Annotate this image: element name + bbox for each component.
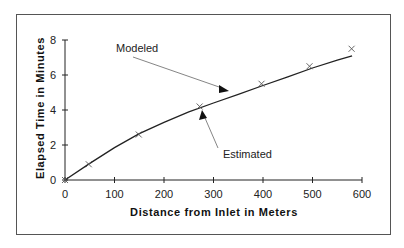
- x-tick-label: 0: [62, 188, 68, 200]
- y-tick-label: 8: [50, 34, 56, 46]
- x-tick-label: 200: [155, 188, 173, 200]
- x-tick-label: 500: [303, 188, 321, 200]
- estimated-annotation: Estimated: [223, 148, 272, 160]
- modeled-annotation: Modeled: [116, 42, 158, 54]
- x-tick-label: 600: [353, 188, 371, 200]
- chart: 010020030040050060002468 Distance from I…: [0, 0, 404, 248]
- y-tick-label: 6: [50, 69, 56, 81]
- y-tick-label: 2: [50, 139, 56, 151]
- x-tick-label: 100: [105, 188, 123, 200]
- x-tick-label: 300: [204, 188, 222, 200]
- x-tick-label: 400: [254, 188, 272, 200]
- y-tick-label: 0: [50, 174, 56, 186]
- y-tick-label: 4: [50, 104, 56, 116]
- chart-frame: [17, 15, 391, 235]
- x-axis-title: Distance from Inlet in Meters: [130, 206, 298, 218]
- y-axis-title: Elapsed Time in Minutes: [34, 37, 46, 179]
